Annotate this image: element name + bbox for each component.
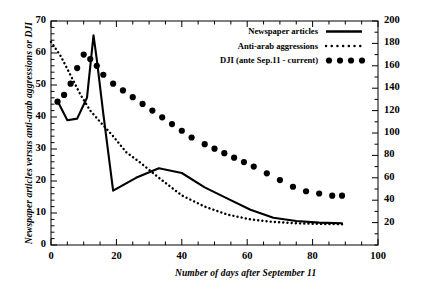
data-point — [54, 99, 60, 105]
data-point — [169, 121, 175, 127]
x-tick-label: 0 — [36, 250, 66, 261]
data-point — [94, 63, 100, 69]
legend-marker-dot — [359, 57, 365, 63]
y-axis-title: Newspaper articles versus anti-arab aggr… — [24, 18, 34, 248]
chart-container: 0102030405060702040608010012014016018020… — [0, 0, 424, 291]
data-point — [231, 155, 237, 161]
data-point — [202, 141, 208, 147]
data-point — [303, 188, 309, 194]
x-tick-label: 80 — [298, 250, 328, 261]
data-point — [339, 193, 345, 199]
x-tick-label: 60 — [232, 250, 262, 261]
legend-label-0: Newspaper articles — [120, 26, 318, 36]
data-point — [81, 52, 87, 58]
data-point — [264, 170, 270, 176]
y-tick-label-right: 20 — [384, 216, 414, 227]
data-point — [110, 81, 116, 87]
legend-label-1: Anti-arab aggressions — [120, 41, 318, 51]
data-point — [211, 146, 217, 152]
data-point — [179, 128, 185, 134]
data-point — [130, 94, 136, 100]
data-point — [277, 177, 283, 183]
y-tick-label-right: 160 — [384, 59, 414, 70]
y-tick-label-right: 180 — [384, 36, 414, 47]
data-point — [68, 81, 74, 87]
legend-marker-dot — [337, 57, 343, 63]
y-tick-label-right: 120 — [384, 104, 414, 115]
series-path-1 — [51, 42, 342, 224]
legend-marker-dot — [326, 57, 332, 63]
data-point — [290, 184, 296, 190]
data-point — [189, 134, 195, 140]
x-tick-label: 40 — [167, 250, 197, 261]
legend-marker-dot — [348, 57, 354, 63]
data-point — [139, 101, 145, 107]
data-point — [316, 190, 322, 196]
data-point — [74, 65, 80, 71]
x-tick-label: 20 — [101, 250, 131, 261]
data-point — [241, 159, 247, 165]
y-tick-label-right: 60 — [384, 171, 414, 182]
data-point — [87, 56, 93, 62]
data-point — [61, 92, 67, 98]
data-point — [120, 87, 126, 93]
y-tick-label-right: 100 — [384, 126, 414, 137]
data-point — [100, 72, 106, 78]
x-tick-label: 100 — [363, 250, 393, 261]
data-point — [221, 150, 227, 156]
data-point — [251, 164, 257, 170]
y-tick-label-right: 80 — [384, 148, 414, 159]
x-axis-title: Number of days after September 11 — [175, 268, 316, 278]
y-tick-label-right: 40 — [384, 193, 414, 204]
data-point — [329, 193, 335, 199]
data-point — [149, 108, 155, 114]
y-tick-label-right: 200 — [384, 14, 414, 25]
y-tick-label-right: 140 — [384, 81, 414, 92]
legend-label-2: DJI (ante Sep.11 - current) — [120, 55, 318, 65]
legend-markers — [326, 32, 365, 64]
data-point — [159, 114, 165, 120]
